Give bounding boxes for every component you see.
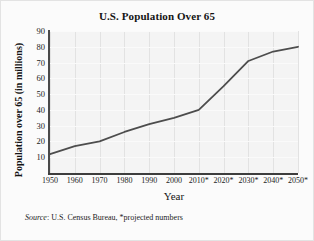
y-axis-tick-labels: 908070605040302010 (27, 29, 45, 191)
y-tick-label: 20 (27, 137, 45, 146)
y-tick-label: 80 (27, 43, 45, 52)
source-text: U.S. Census Bureau, *projected numbers (51, 213, 183, 222)
source-label: Source (25, 213, 47, 222)
x-tick-label: 2000 (166, 177, 182, 185)
x-tick-label: 2010* (189, 177, 209, 185)
x-tick-label: 1950 (42, 177, 58, 185)
y-axis-title-container: Population over 65 (in millions) (10, 29, 26, 191)
y-tick-label: 70 (27, 59, 45, 68)
y-tick-label: 60 (27, 74, 45, 83)
x-tick-label: 2050* (288, 177, 308, 185)
x-tick-label: 2030* (238, 177, 258, 185)
y-tick-label: 10 (27, 153, 45, 162)
plot-area (50, 31, 298, 173)
x-axis-line (48, 173, 298, 175)
x-tick-label: 1970 (92, 177, 108, 185)
x-tick-label: 2040* (263, 177, 283, 185)
y-tick-label: 50 (27, 90, 45, 99)
source-note: Source: U.S. Census Bureau, *projected n… (25, 213, 183, 222)
x-tick-label: 1960 (67, 177, 83, 185)
chart-title: U.S. Population Over 65 (1, 10, 313, 22)
x-axis-tick-labels: 1950196019701980199020002010*2020*2030*2… (50, 177, 298, 189)
y-tick-label: 90 (27, 27, 45, 36)
data-line-svg (50, 31, 298, 173)
chart-figure: U.S. Population Over 65 Population over … (0, 0, 314, 241)
x-tick-label: 2020* (214, 177, 234, 185)
y-axis-title: Population over 65 (in millions) (13, 43, 24, 177)
y-axis-line (48, 30, 50, 175)
y-tick-label: 30 (27, 122, 45, 131)
x-tick-label: 1980 (116, 177, 132, 185)
gridline-vertical (298, 31, 299, 173)
population-line-series (50, 47, 298, 154)
x-axis-title: Year (50, 190, 298, 202)
x-tick-label: 1990 (141, 177, 157, 185)
y-tick-label: 40 (27, 106, 45, 115)
